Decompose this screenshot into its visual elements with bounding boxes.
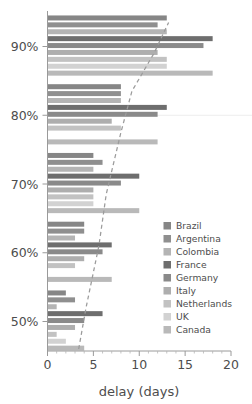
legend-swatch-colombia [164,248,172,256]
bar-canada-90pct [48,71,213,76]
legend-swatch-canada [164,326,172,334]
bar-italy-60pct [48,256,85,261]
legend-swatch-netherlands [164,300,172,308]
bar-netherlands-80pct [48,126,121,131]
bar-colombia-90pct [48,29,167,34]
bar-colombia-70pct [48,167,94,172]
bar-canada-80pct [48,139,158,144]
bar-brazil-90pct [48,15,167,20]
bar-france-70pct [48,174,140,179]
bar-germany-90pct [48,43,204,48]
bar-germany-80pct [48,112,158,117]
bar-france-50pct [48,311,103,316]
bar-germany-70pct [48,181,121,186]
x-axis-title: delay (days) [99,384,179,399]
bar-argentina-50pct [48,297,76,302]
bar-canada-70pct [48,208,140,213]
bar-argentina-60pct [48,229,85,234]
bar-argentina-90pct [48,22,158,27]
chart-legend: BrazilArgentinaColombiaFranceGermanyItal… [164,220,233,335]
bar-france-60pct [48,242,112,247]
legend-label-france: France [176,259,207,270]
bar-germany-60pct [48,249,103,254]
bar-germany-50pct [48,318,85,323]
bar-italy-90pct [48,50,158,55]
legend-swatch-germany [164,274,172,282]
bar-colombia-60pct [48,236,76,241]
legend-swatch-argentina [164,235,172,243]
bar-italy-80pct [48,119,112,124]
legend-swatch-uk [164,313,172,321]
bar-canada-60pct [48,277,112,282]
legend-swatch-brazil [164,222,172,230]
y-axis-ticks: 50%60%70%80%90% [11,39,48,329]
bar-colombia-50pct [48,304,57,309]
bar-brazil-50pct [48,290,66,295]
y-tick-label-90%: 90% [11,39,39,54]
bar-brazil-70pct [48,153,94,158]
bar-netherlands-50pct [48,332,57,337]
legend-swatch-france [164,261,172,269]
y-tick-label-50%: 50% [11,314,39,329]
legend-label-uk: UK [176,311,190,322]
x-tick-label-5: 5 [89,357,97,372]
bar-france-80pct [48,105,167,110]
bar-netherlands-60pct [48,263,76,268]
bar-netherlands-70pct [48,194,94,199]
bar-argentina-80pct [48,91,121,96]
bar-italy-70pct [48,187,94,192]
bar-uk-50pct [48,339,66,344]
x-tick-label-20: 20 [223,357,239,372]
legend-swatch-italy [164,287,172,295]
legend-label-argentina: Argentina [176,233,221,244]
x-tick-label-0: 0 [44,357,52,372]
legend-label-brazil: Brazil [176,220,202,231]
x-tick-label-15: 15 [177,357,193,372]
legend-label-germany: Germany [176,272,219,283]
bar-uk-70pct [48,201,94,206]
bar-brazil-60pct [48,222,85,227]
x-tick-label-10: 10 [131,357,147,372]
chart-container: 05101520 50%60%70%80%90% delay (days) Br… [0,0,252,404]
bar-france-90pct [48,36,213,41]
y-tick-label-70%: 70% [11,177,39,192]
legend-label-italy: Italy [176,285,196,296]
bar-colombia-80pct [48,98,121,103]
x-axis-ticks: 05101520 [44,351,239,372]
bar-italy-50pct [48,325,76,330]
bar-argentina-70pct [48,160,103,165]
y-tick-label-80%: 80% [11,108,39,123]
bar-uk-90pct [48,64,167,69]
legend-label-canada: Canada [176,324,211,335]
grouped-bar-chart: 05101520 50%60%70%80%90% delay (days) Br… [0,0,252,404]
legend-label-netherlands: Netherlands [176,298,232,309]
legend-label-colombia: Colombia [176,246,219,257]
bar-brazil-80pct [48,84,121,89]
y-tick-label-60%: 60% [11,245,39,260]
